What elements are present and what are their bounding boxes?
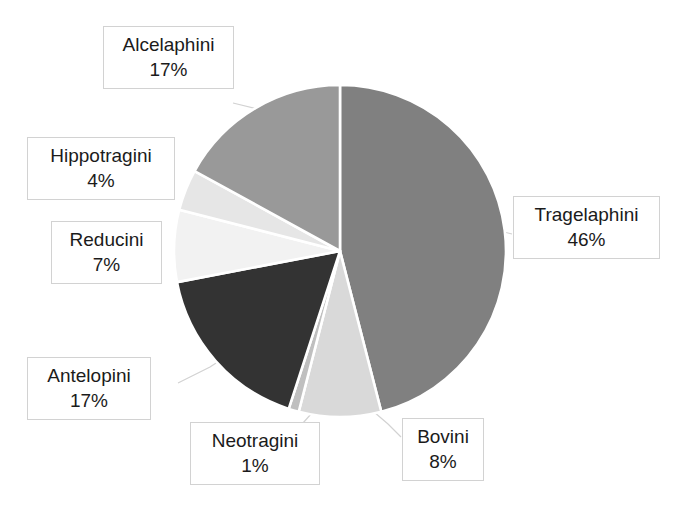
slice-label-hippotragini-percent: 4%: [36, 168, 166, 193]
slice-label-alcelaphini-name: Alcelaphini: [112, 32, 225, 57]
slice-label-neotragini-name: Neotragini: [199, 428, 311, 453]
slice-label-alcelaphini[interactable]: Alcelaphini 17%: [103, 26, 234, 89]
slice-label-reducini[interactable]: Reducini 7%: [51, 221, 162, 284]
slice-label-antelopini-name: Antelopini: [36, 363, 142, 388]
slice-label-hippotragini[interactable]: Hippotragini 4%: [27, 137, 175, 200]
slice-label-neotragini[interactable]: Neotragini 1%: [190, 422, 320, 485]
slice-label-antelopini[interactable]: Antelopini 17%: [27, 357, 151, 420]
slice-label-bovini-name: Bovini: [411, 424, 475, 449]
leader-line-bovini: [374, 412, 401, 437]
pie-slices: [174, 85, 506, 417]
slice-label-neotragini-percent: 1%: [199, 453, 311, 478]
slice-label-alcelaphini-percent: 17%: [112, 57, 225, 82]
slice-label-reducini-name: Reducini: [60, 227, 153, 252]
pie-chart-figure: formation Alcelaphini 17% Hippotragini 4…: [0, 0, 678, 506]
slice-label-hippotragini-name: Hippotragini: [36, 143, 166, 168]
slice-label-tragelaphini-name: Tragelaphini: [522, 202, 651, 227]
slice-label-tragelaphini-percent: 46%: [522, 227, 651, 252]
slice-label-antelopini-percent: 17%: [36, 388, 142, 413]
slice-label-bovini-percent: 8%: [411, 449, 475, 474]
slice-label-tragelaphini[interactable]: Tragelaphini 46%: [513, 196, 660, 259]
slice-label-reducini-percent: 7%: [60, 252, 153, 277]
slice-label-bovini[interactable]: Bovini 8%: [402, 418, 484, 481]
